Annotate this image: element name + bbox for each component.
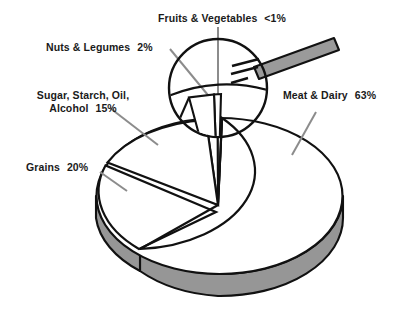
label-sugar-name-line1: Sugar, Starch, Oil, bbox=[37, 89, 129, 101]
label-nuts-legumes-pct: 2% bbox=[137, 41, 152, 53]
label-fruits-vegetables-name: Fruits & Vegetables bbox=[158, 12, 257, 24]
label-meat-dairy: Meat & Dairy63% bbox=[283, 89, 376, 102]
label-fruits-vegetables-pct: <1% bbox=[264, 12, 286, 24]
label-grains-name: Grains bbox=[26, 161, 60, 173]
label-sugar-starch-oil-alcohol: Sugar, Starch, Oil, Alcohol15% bbox=[24, 89, 142, 115]
label-sugar-name-line2: Alcohol bbox=[49, 102, 88, 114]
label-grains-pct: 20% bbox=[67, 161, 88, 173]
label-grains: Grains20% bbox=[26, 161, 88, 174]
magnifier-handle bbox=[254, 38, 339, 79]
label-sugar-pct: 15% bbox=[95, 102, 116, 114]
label-fruits-vegetables: Fruits & Vegetables<1% bbox=[158, 12, 286, 25]
label-meat-dairy-pct: 63% bbox=[355, 89, 376, 101]
pie-chart-figure: Fruits & Vegetables<1% Nuts & Legumes2% … bbox=[0, 0, 411, 333]
pie-3d-body bbox=[96, 118, 343, 296]
label-nuts-legumes-name: Nuts & Legumes bbox=[46, 41, 130, 53]
label-nuts-legumes: Nuts & Legumes2% bbox=[46, 41, 153, 54]
label-meat-dairy-name: Meat & Dairy bbox=[283, 89, 348, 101]
